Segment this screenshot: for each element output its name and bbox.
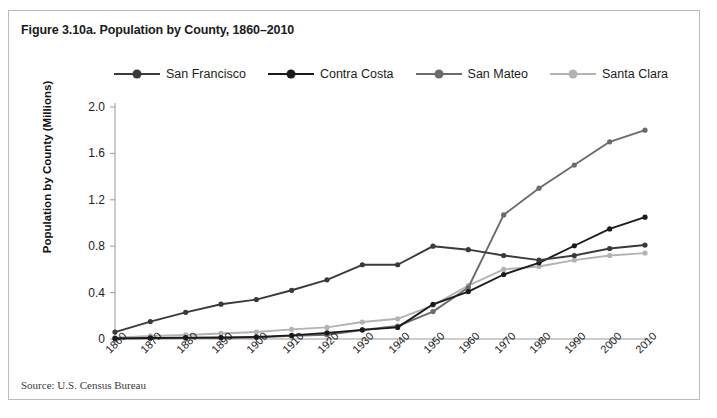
series-data-point xyxy=(607,246,612,251)
series-data-point xyxy=(360,262,365,267)
series-data-point xyxy=(395,262,400,267)
series-data-point xyxy=(536,258,541,263)
chart-plot-area: Population by County (Millions) 00.40.81… xyxy=(9,11,701,401)
series-data-point xyxy=(572,243,577,248)
series-data-point xyxy=(148,319,153,324)
series-data-point xyxy=(572,253,577,258)
source-note: Source: U.S. Census Bureau xyxy=(21,379,146,391)
y-axis-tick-label: 2.0 xyxy=(71,100,105,114)
series-data-point xyxy=(324,277,329,282)
series-data-point xyxy=(572,162,577,167)
y-axis-tick-label: 1.2 xyxy=(71,193,105,207)
series-data-point xyxy=(607,139,612,144)
series-data-point xyxy=(642,128,647,133)
y-axis-label: Population by County (Millions) xyxy=(41,67,53,267)
series-data-point xyxy=(642,215,647,220)
series-data-point xyxy=(324,325,329,330)
series-data-point xyxy=(642,251,647,256)
series-data-point xyxy=(501,212,506,217)
series-data-point xyxy=(501,272,506,277)
series-data-point xyxy=(183,310,188,315)
series-data-point xyxy=(536,186,541,191)
y-axis-tick-label: 1.6 xyxy=(71,146,105,160)
y-axis-tick-label: 0.4 xyxy=(71,286,105,300)
series-data-point xyxy=(430,302,435,307)
series-data-point xyxy=(218,302,223,307)
y-axis-tick-label: 0 xyxy=(71,332,105,346)
series-data-point xyxy=(642,242,647,247)
series-data-point xyxy=(430,309,435,314)
series-data-point xyxy=(395,325,400,330)
series-data-point xyxy=(289,288,294,293)
figure-card: Figure 3.10a. Population by County, 1860… xyxy=(8,10,700,400)
series-data-point xyxy=(501,253,506,258)
series-data-point xyxy=(466,247,471,252)
series-data-point xyxy=(289,327,294,332)
series-data-point xyxy=(607,226,612,231)
series-data-point xyxy=(254,297,259,302)
y-axis-tick-label: 0.8 xyxy=(71,239,105,253)
series-data-point xyxy=(501,267,506,272)
chart-series-san-mateo xyxy=(112,128,647,342)
series-data-point xyxy=(466,289,471,294)
series-data-point xyxy=(430,244,435,249)
series-line xyxy=(115,245,645,332)
series-data-point xyxy=(395,316,400,321)
chart-series-contra-costa xyxy=(112,215,647,341)
series-data-point xyxy=(607,253,612,258)
series-line xyxy=(115,130,645,338)
series-data-point xyxy=(360,319,365,324)
series-line xyxy=(115,253,645,338)
series-data-point xyxy=(572,258,577,263)
